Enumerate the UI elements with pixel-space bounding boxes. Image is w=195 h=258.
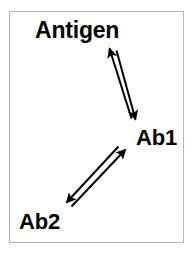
edge-antigen-ab1 [110, 49, 136, 120]
figure-root: Antigen Ab1 Ab2 [0, 0, 195, 258]
edge-ab2-ab1 [67, 147, 126, 207]
arrow-ab1-to-ab2 [67, 147, 119, 203]
node-label-antigen: Antigen [35, 19, 119, 42]
arrow-ab1-to-antigen [110, 49, 132, 119]
arrow-ab2-to-ab1 [72, 150, 126, 207]
arrow-antigen-to-ab1 [117, 51, 136, 120]
node-label-ab1: Ab1 [136, 127, 177, 149]
node-label-ab2: Ab2 [19, 211, 60, 233]
